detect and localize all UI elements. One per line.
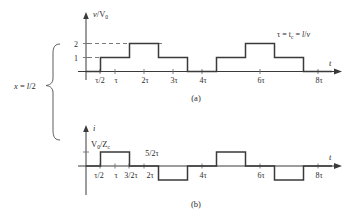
- panel-b-x-tick-label-2: 3/2τ: [124, 171, 138, 180]
- panel-a-x-tick-label-4: 4τ: [199, 76, 207, 85]
- panel-a-y-tick-label-1: 1: [74, 54, 78, 63]
- panel-b-y-axis-label: i: [93, 123, 96, 133]
- panel-b-x-tick-label-0: τ/2: [94, 171, 103, 180]
- panel-b-x-tick-label-3: 2τ: [146, 171, 154, 180]
- panel-b-x-tick-label-7: 8τ: [315, 171, 323, 180]
- panel-b-y-arrow: [83, 125, 89, 132]
- panel-a-waveform: [86, 44, 332, 72]
- figure-container: x = l/2: [0, 0, 355, 217]
- panel-a-x-tick-label-0: τ/2: [95, 76, 104, 85]
- panel-b-x-tick-label-6: 6τ: [257, 171, 265, 180]
- panel-b: i V0/Zc t τ/2 τ 3/2τ 2τ 5/2τ 4τ 6τ 8τ (b…: [78, 123, 342, 209]
- panel-a-y-arrow: [83, 12, 89, 19]
- panel-a-x-tick-label-5: 6τ: [257, 76, 265, 85]
- panel-b-x-axis-label: t: [329, 152, 332, 162]
- panel-a-annotation: τ = tc = l/v: [277, 30, 310, 40]
- panel-b-caption: (b): [191, 199, 201, 209]
- panel-b-axes: [78, 125, 342, 195]
- panel-b-x-arrow: [334, 163, 342, 169]
- panel-a-x-tick-label-2: 2τ: [141, 76, 149, 85]
- svg-text:τ = tc = l/v: τ = tc = l/v: [277, 30, 310, 40]
- panel-b-x-tick-label-5: 4τ: [199, 171, 207, 180]
- left-brace: [46, 44, 60, 140]
- panel-b-x-tick-label-4: 5/2τ: [145, 149, 159, 158]
- x-position-label: x = l/2: [13, 81, 36, 91]
- figure-svg: x = l/2: [0, 0, 355, 217]
- panel-b-amplitude-label: V0/Zc: [91, 139, 111, 150]
- panel-a-axes: [78, 12, 342, 80]
- panel-a-caption: (a): [191, 93, 201, 103]
- panel-b-labels: i V0/Zc t: [91, 123, 332, 162]
- panel-a-guides: [88, 44, 163, 58]
- panel-a-x-tick-label-6: 8τ: [315, 76, 323, 85]
- panel-a-y-axis-label: v/V0: [93, 9, 108, 20]
- svg-text:x = l/2: x = l/2: [13, 81, 36, 91]
- panel-a-y-tick-label-2: 2: [74, 40, 78, 49]
- panel-a-x-axis-label: t: [329, 58, 332, 68]
- panel-a-x-tick-label-1: τ: [114, 76, 118, 85]
- panel-a-x-arrow: [334, 69, 342, 75]
- panel-b-x-tick-label-1: τ: [114, 171, 118, 180]
- panel-a-x-tick-label-3: 3τ: [170, 76, 178, 85]
- panel-a-y-tick-labels: 1 2: [74, 40, 78, 63]
- panel-a: v/V0 t 1 2 τ/2 τ 2τ 3τ 4τ 6τ 8τ τ = tc =…: [74, 9, 342, 103]
- left-brace-group: [46, 44, 60, 140]
- panel-a-x-tick-labels: τ/2 τ 2τ 3τ 4τ 6τ 8τ: [95, 76, 323, 85]
